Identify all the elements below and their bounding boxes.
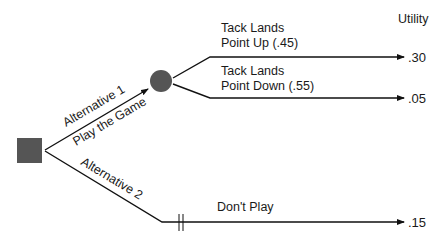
outcome-point-down-label-line1: Tack Lands — [221, 64, 284, 78]
utility-dont-play: .15 — [408, 215, 426, 230]
alternative-2-label: Alternative 2 — [78, 155, 145, 203]
outcome-point-up-label-line1: Tack Lands — [221, 21, 284, 35]
decision-tree-diagram: Utility Alternative 1 Play the Game Tack… — [0, 0, 439, 245]
outcome-point-up-label-line2: Point Up (.45) — [221, 36, 298, 50]
utility-header: Utility — [398, 12, 429, 26]
dont-play-label: Don't Play — [217, 200, 274, 214]
utility-point-down: .05 — [408, 91, 426, 106]
decision-node-square — [17, 138, 42, 163]
chance-node-circle — [150, 70, 172, 92]
outcome-point-up-branch — [173, 57, 404, 78]
utility-point-up: .30 — [408, 50, 426, 65]
outcome-point-down-label-line2: Point Down (.55) — [221, 79, 314, 93]
